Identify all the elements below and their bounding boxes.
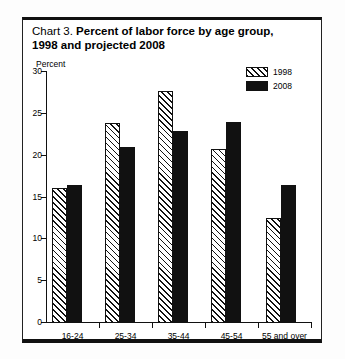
chart-title-bold-line-2: 1998 and projected 2008	[32, 39, 165, 51]
chart-title-bold-line-1: Percent of labor force by age group,	[76, 25, 273, 37]
solid-swatch-icon	[246, 81, 268, 91]
legend-label-2008: 2008	[273, 81, 292, 91]
legend-label-1998: 1998	[273, 67, 292, 77]
legend-item-2008: 2008	[246, 80, 292, 92]
chart-title-lead: Chart 3.	[32, 25, 76, 37]
hatched-swatch-icon	[246, 67, 268, 77]
chart-page: Chart 3. Percent of labor force by age g…	[0, 0, 345, 359]
chart-title: Chart 3. Percent of labor force by age g…	[32, 24, 314, 52]
legend-item-1998: 1998	[246, 66, 292, 78]
chart-legend: 1998 2008	[246, 66, 292, 94]
y-axis-unit-label: Percent	[36, 59, 65, 69]
